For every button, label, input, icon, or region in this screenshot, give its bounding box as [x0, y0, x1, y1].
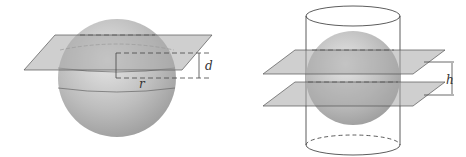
- cylinder-top: [306, 6, 400, 26]
- diagram-canvas: d r h: [0, 0, 466, 157]
- sphere-right: [306, 31, 400, 125]
- label-h: h: [446, 73, 454, 87]
- cutting-plane: [24, 35, 212, 70]
- lower-plane: [263, 82, 445, 106]
- left-figure: d r: [24, 19, 213, 137]
- upper-plane: [263, 50, 445, 74]
- label-d: d: [205, 59, 213, 73]
- right-figure: h: [263, 6, 454, 155]
